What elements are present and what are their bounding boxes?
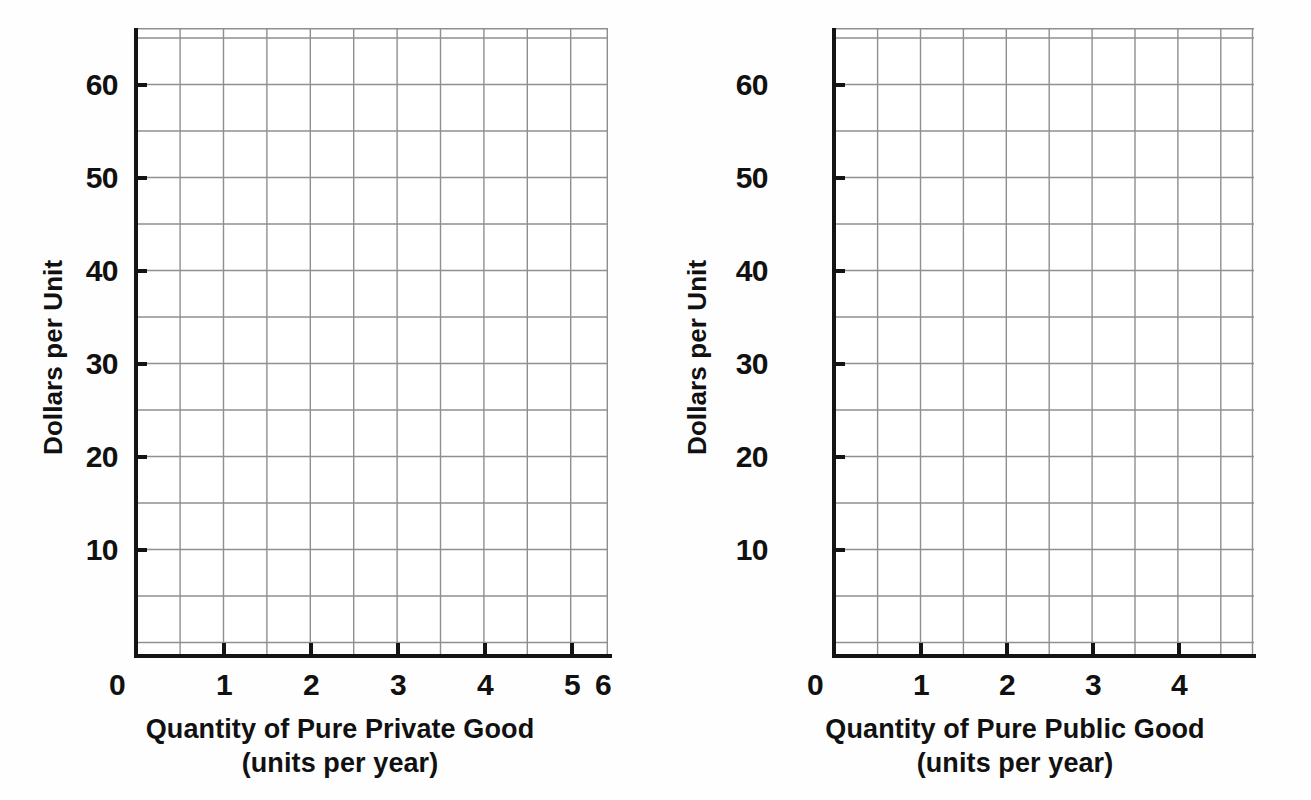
y-tick-label-10-public: 10 [706,535,768,565]
y-tick-20-public [834,455,845,459]
x-tick-label-2-private: 2 [282,670,340,700]
x-tick-label-3-public: 3 [1064,670,1122,700]
x-tick-3-private [396,643,400,655]
y-tick-10-public [834,548,845,552]
y-tick-label-60-public: 60 [706,70,768,100]
y-tick-label-40-public: 40 [706,256,768,286]
x-axis-title-sub-private: (units per year) [60,746,620,780]
x-tick-label-2-public: 2 [978,670,1036,700]
x-tick-4-public [1177,643,1181,655]
y-tick-40-private [136,269,147,273]
y-tick-label-30-private: 30 [56,349,118,379]
y-tick-label-60-private: 60 [56,70,118,100]
x-axis-spine-private [134,654,612,658]
x-axis-title-private: Quantity of Pure Private Good (units per… [60,712,620,780]
x-tick-4-private [483,643,487,655]
y-tick-label-30-public: 30 [706,349,768,379]
x-tick-3-public [1091,643,1095,655]
y-tick-10-private [136,548,147,552]
x-tick-1-private [222,643,226,655]
x-axis-title-sub-public: (units per year) [755,746,1275,780]
x-tick-2-public [1005,643,1009,655]
y-tick-label-50-public: 50 [706,163,768,193]
y-tick-label-10-private: 10 [56,535,118,565]
y-tick-label-50-private: 50 [56,163,118,193]
plot-grid-private [136,28,610,658]
y-tick-40-public [834,269,845,273]
y-axis-spine-public [832,28,836,658]
x-tick-label-0-public: 0 [786,670,844,700]
chart-panel-public-good: Dollars per Unit 60 50 40 30 20 10 [660,0,1311,800]
y-tick-30-public [834,362,845,366]
y-tick-label-40-private: 40 [56,256,118,286]
y-tick-label-20-public: 20 [706,442,768,472]
x-axis-title-main-private: Quantity of Pure Private Good [146,714,534,744]
x-tick-label-6-private: 6 [574,670,632,700]
y-tick-50-private [136,176,147,180]
x-tick-label-4-private: 4 [456,670,514,700]
plot-grid-public [834,28,1256,658]
x-axis-title-main-public: Quantity of Pure Public Good [825,714,1204,744]
x-tick-label-3-private: 3 [369,670,427,700]
chart-panel-private-good: Dollars per Unit 60 50 40 30 20 10 [0,0,660,800]
y-tick-30-private [136,362,147,366]
y-tick-60-public [834,83,845,87]
figure-canvas: Dollars per Unit 60 50 40 30 20 10 [0,0,1311,800]
x-tick-label-1-public: 1 [892,670,950,700]
y-axis-spine-private [134,28,138,658]
x-axis-spine-public [832,654,1256,658]
y-tick-20-private [136,455,147,459]
y-tick-label-20-private: 20 [56,442,118,472]
x-tick-label-4-public: 4 [1150,670,1208,700]
x-tick-1-public [919,643,923,655]
y-tick-60-private [136,83,147,87]
x-axis-title-public: Quantity of Pure Public Good (units per … [755,712,1275,780]
x-tick-2-private [309,643,313,655]
x-tick-label-1-private: 1 [195,670,253,700]
x-tick-5-private [570,643,574,655]
x-tick-label-0-private: 0 [88,670,146,700]
y-tick-50-public [834,176,845,180]
